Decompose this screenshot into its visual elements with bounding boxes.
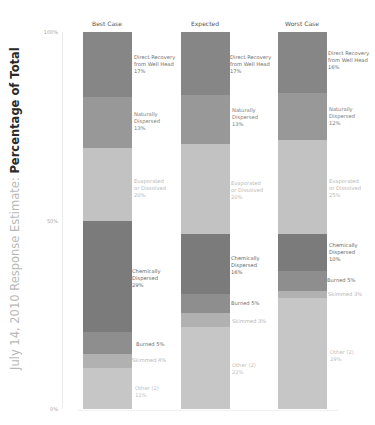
label-best-burned: Burned 5% [136,341,165,348]
y-axis-title-plain: July 14, 2010 Response Estimate: [8,174,22,370]
segment-chemically-dispersed [278,234,327,271]
segment-burned [181,294,230,313]
column-title-best-case: Best Case [67,20,147,27]
label-best-other: Other (2) 11% [135,385,159,399]
label-worst-other: Other (2) 29% [330,349,354,363]
label-best-chem: Chemically Dispersed 29% [132,268,161,289]
segment-direct-recovery [181,32,230,95]
label-worst-natural: Naturally Dispersed 12% [329,106,355,127]
segment-chemically-dispersed [83,221,132,332]
label-expected-other: Other (2) 22% [232,362,256,376]
label-worst-burned: Burned 5% [327,277,356,284]
y-tick-50: 50% [28,218,58,224]
label-expected-direct: Direct Recovery from Well Head 17% [230,54,271,75]
bar-best-case [83,32,132,409]
label-worst-skimmed: Skimmed 3% [328,291,362,298]
label-expected-evap: Evaporated or Dissolved 20% [231,180,263,201]
segment-evaporated [181,144,230,234]
segment-chemically-dispersed [181,234,230,294]
column-title-worst-case: Worst Case [262,20,342,27]
segment-evaporated [83,148,132,221]
segment-other [83,368,132,409]
label-expected-skimmed: Skimmed 3% [232,318,266,325]
label-expected-burned: Burned 5% [231,300,260,307]
segment-other [278,298,327,409]
label-best-natural: Naturally Dispersed 13% [134,111,160,132]
y-axis-line [62,32,63,409]
segment-naturally-dispersed [181,95,230,144]
label-worst-evap: Evaporated or Dissolved 25% [329,178,361,199]
column-title-expected: Expected [165,20,245,27]
y-tick-100: 100% [28,29,58,35]
segment-direct-recovery [83,32,132,97]
label-best-direct: Direct Recovery from Well Head 17% [134,54,175,75]
bar-worst-case [278,32,327,409]
segment-naturally-dispersed [83,97,132,148]
segment-skimmed [83,354,132,368]
label-expected-natural: Naturally Dispersed 13% [232,107,258,128]
segment-burned [83,332,132,354]
segment-burned [278,271,327,291]
y-tick-0: 0% [28,406,58,412]
segment-other [181,327,230,409]
y-axis-title: July 14, 2010 Response Estimate: Percent… [8,70,24,370]
label-best-skimmed: Skimmed 4% [132,357,166,364]
segment-skimmed [181,313,230,327]
label-worst-direct: Direct Recovery from Well Head 16% [328,50,369,71]
segment-direct-recovery [278,32,327,93]
label-best-evap: Evaporated or Dissolved 20% [134,178,166,199]
y-axis-title-bold: Percentage of Total [8,47,22,173]
bar-expected [181,32,230,409]
baseline [78,410,338,411]
segment-naturally-dispersed [278,93,327,140]
label-worst-chem: Chemically Dispersed 10% [329,242,358,263]
segment-skimmed [278,291,327,298]
label-expected-chem: Chemically Dispersed 16% [231,255,260,276]
segment-evaporated [278,140,327,234]
